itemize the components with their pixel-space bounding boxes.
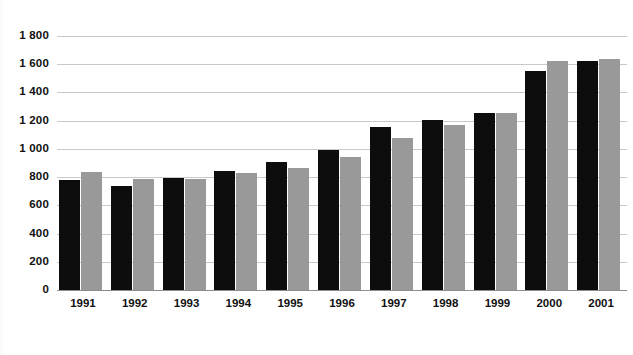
bar [236,173,257,290]
y-axis-tick-label: 200 [0,255,49,267]
bar-group [212,36,264,290]
x-axis-tick-label: 1996 [316,297,368,309]
y-axis-tick-label: 1 000 [0,142,49,154]
x-axis-tick-label: 2001 [575,297,627,309]
bar [599,59,620,290]
x-axis-tick-label: 1998 [420,297,472,309]
bar [370,127,391,290]
bar-group [575,36,627,290]
bar [133,179,154,290]
bar [318,150,339,290]
bars-layer [57,36,627,290]
x-axis-tick-label: 1994 [212,297,264,309]
bar-group [57,36,109,290]
plot-area [57,36,627,290]
bar-chart: 02004006008001 0001 2001 4001 6001 800 1… [0,0,633,355]
x-axis-tick-label: 1995 [264,297,316,309]
y-axis-tick-label: 1 400 [0,85,49,97]
y-axis-tick-label: 1 800 [0,29,49,41]
bar-group [109,36,161,290]
bar [340,157,361,290]
x-axis-tick-label: 1993 [161,297,213,309]
bar [163,178,184,290]
y-axis-tick-label: 400 [0,227,49,239]
axis-baseline [57,290,627,291]
bar [444,125,465,290]
x-axis-tick-label: 1999 [471,297,523,309]
bar-group [316,36,368,290]
bar-group [472,36,524,290]
y-axis-tick-label: 800 [0,170,49,182]
bar-group [420,36,472,290]
bar-group [264,36,316,290]
bar [577,61,598,290]
bar [547,61,568,290]
x-axis-tick-label: 2000 [523,297,575,309]
bar [288,168,309,290]
x-axis-tick-label: 1992 [109,297,161,309]
bar [214,171,235,290]
y-axis-tick-label: 1 200 [0,114,49,126]
bar [111,186,132,290]
bar [422,120,443,290]
bar [266,162,287,290]
x-axis: 1991199219931994199519961997199819992000… [57,297,627,317]
bar [81,172,102,291]
bar [525,71,546,290]
bar [392,138,413,290]
y-axis-tick-label: 1 600 [0,57,49,69]
x-axis-tick-label: 1997 [368,297,420,309]
x-axis-tick-label: 1991 [57,297,109,309]
bar-group [368,36,420,290]
bar-group [523,36,575,290]
bar [474,113,495,290]
y-axis-tick-label: 0 [0,283,49,295]
bar [496,113,517,290]
bar [185,179,206,291]
bar [59,180,80,290]
bar-group [161,36,213,290]
y-axis-tick-label: 600 [0,198,49,210]
